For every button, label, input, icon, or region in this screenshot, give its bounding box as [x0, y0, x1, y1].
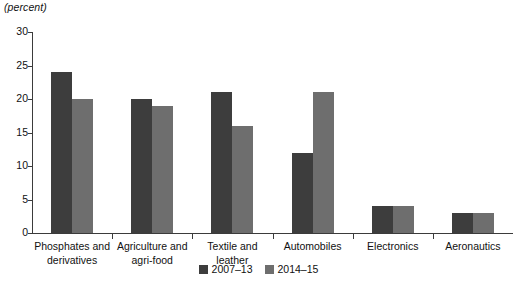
x-axis-tick-mark — [433, 233, 434, 239]
bar — [452, 213, 473, 233]
legend-label: 2014–15 — [278, 263, 319, 275]
y-axis-tick-mark — [28, 99, 33, 100]
bar — [292, 153, 313, 233]
bar — [393, 206, 414, 233]
x-axis-tick-mark — [112, 233, 113, 239]
bar — [72, 99, 93, 233]
x-axis-tick-mark — [353, 233, 354, 239]
bar-group — [372, 32, 414, 233]
y-axis-tick-mark — [28, 166, 33, 167]
legend-item: 2007–13 — [199, 263, 253, 275]
y-axis-tick-label: 30 — [16, 25, 28, 37]
bar-group — [211, 32, 253, 233]
chart-legend: 2007–132014–15 — [0, 263, 517, 275]
bar — [313, 92, 334, 233]
x-axis-tick-mark — [192, 233, 193, 239]
bar-group — [452, 32, 494, 233]
bar-group — [51, 32, 93, 233]
bar — [473, 213, 494, 233]
bar — [152, 106, 173, 233]
y-axis-tick-label: 20 — [16, 92, 28, 104]
y-axis-tick-label: 25 — [16, 59, 28, 71]
chart-unit-label: (percent) — [4, 1, 47, 13]
y-axis-tick-mark — [28, 133, 33, 134]
bar-group — [131, 32, 173, 233]
y-axis-tick-label: 10 — [16, 159, 28, 171]
bar — [211, 92, 232, 233]
y-axis-tick-mark — [28, 66, 33, 67]
x-axis-category-label: Aeronautics — [433, 240, 513, 254]
x-axis-category-label: Electronics — [353, 240, 433, 254]
y-axis-tick-label: 5 — [22, 193, 28, 205]
y-axis-tick-label: 15 — [16, 126, 28, 138]
bar-group — [292, 32, 334, 233]
plot-area: 051015202530 — [32, 32, 513, 233]
bar-chart: (percent) 051015202530 Phosphates and de… — [0, 0, 517, 283]
bar — [372, 206, 393, 233]
legend-item: 2014–15 — [265, 263, 319, 275]
legend-swatch-icon — [199, 265, 208, 274]
legend-swatch-icon — [265, 265, 274, 274]
y-axis-tick-mark — [28, 233, 33, 234]
y-axis-tick-label: 0 — [22, 226, 28, 238]
bar — [51, 72, 72, 233]
y-axis-tick-mark — [28, 200, 33, 201]
legend-label: 2007–13 — [212, 263, 253, 275]
y-axis-tick-mark — [28, 32, 33, 33]
bar — [131, 99, 152, 233]
bar — [232, 126, 253, 233]
x-axis-category-label: Automobiles — [273, 240, 353, 254]
x-axis-tick-mark — [273, 233, 274, 239]
